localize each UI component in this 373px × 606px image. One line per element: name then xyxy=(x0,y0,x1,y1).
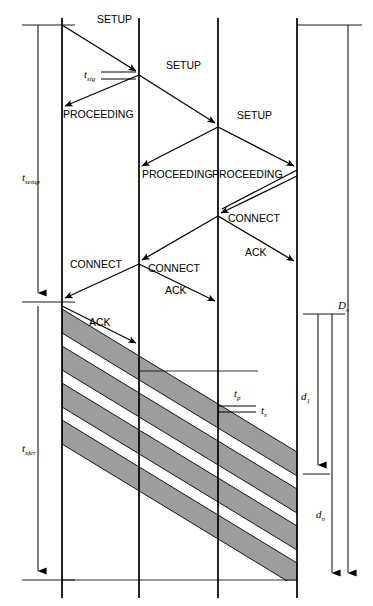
right-measure-bars xyxy=(297,25,362,573)
timing-diagram-svg: SETUP PROCEEDING SETUP PROCEEDING SETUP … xyxy=(0,0,373,606)
label-D-s-base: D xyxy=(337,299,346,311)
label-d-n: dn xyxy=(316,508,326,523)
label-connect-1: CONNECT xyxy=(228,212,281,224)
label-t-sig: tsig xyxy=(84,68,96,83)
label-proceeding-2: PROCEEDING xyxy=(142,168,213,180)
label-d-1: d1 xyxy=(301,390,310,405)
arrow-setup-2 xyxy=(139,75,215,123)
label-t-setup-sub: setup xyxy=(25,178,40,186)
label-D-s: Ds xyxy=(337,299,349,314)
label-proceeding-1: PROCEEDING xyxy=(63,108,134,120)
diagram-canvas: SETUP PROCEEDING SETUP PROCEEDING SETUP … xyxy=(0,0,373,606)
label-D-s-sub: s xyxy=(346,306,349,314)
data-transfer-bands xyxy=(62,309,297,587)
arrow-setup-1 xyxy=(62,25,136,71)
label-ack-1: ACK xyxy=(245,246,267,258)
label-t-p-sub: p xyxy=(236,394,241,402)
arrow-connect-1 xyxy=(221,176,297,213)
label-t-s-sub: s xyxy=(264,411,267,419)
label-setup-1: SETUP xyxy=(97,13,132,25)
label-t-xfer: txfer xyxy=(22,442,36,457)
label-connect-3: CONNECT xyxy=(70,258,123,270)
label-t-p: tp xyxy=(234,387,241,402)
label-t-s: ts xyxy=(261,404,267,419)
label-t-sig-sub: sig xyxy=(87,75,96,83)
label-ack-3: ACK xyxy=(89,316,111,328)
arrow-proceeding-2 xyxy=(142,127,218,166)
label-setup-2: SETUP xyxy=(166,59,201,71)
label-proceeding-3: PROCEEDING xyxy=(212,168,283,180)
arrow-proceeding-1 xyxy=(65,75,139,106)
label-ack-2: ACK xyxy=(165,284,187,296)
label-d-1-sub: 1 xyxy=(307,397,311,405)
arrow-setup-3 xyxy=(218,127,294,166)
arrow-connect-2 xyxy=(142,216,218,260)
label-d-n-sub: n xyxy=(322,515,326,523)
label-connect-2: CONNECT xyxy=(148,262,201,274)
label-t-xfer-sub: xfer xyxy=(24,449,36,457)
label-setup-3: SETUP xyxy=(237,109,272,121)
